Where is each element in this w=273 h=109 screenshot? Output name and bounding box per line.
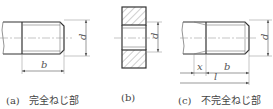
figure-b-nut: d	[114, 7, 162, 68]
dim-l-c: l	[214, 71, 217, 82]
dim-d-b: d	[149, 33, 160, 39]
caption-b-label: (b)	[121, 92, 135, 103]
caption-c: (c) 不完全ねじ部	[178, 92, 261, 107]
dim-d-a: d	[77, 34, 88, 40]
dim-x-c: x	[197, 61, 203, 72]
caption-c-label: (c)	[178, 95, 191, 106]
dim-b-a: b	[41, 59, 47, 70]
caption-c-text: 不完全ねじ部	[201, 95, 261, 106]
figure-c-bolt: d x b l	[180, 20, 272, 85]
dim-d-c: d	[259, 34, 270, 40]
caption-a-text: 完全ねじ部	[29, 95, 79, 106]
dim-b-c: b	[224, 61, 230, 72]
caption-a-label: (a)	[6, 95, 20, 106]
figure-a-bolt: d b	[0, 20, 90, 74]
caption-a: (a) 完全ねじ部	[6, 92, 79, 107]
caption-b: (b)	[121, 92, 135, 103]
